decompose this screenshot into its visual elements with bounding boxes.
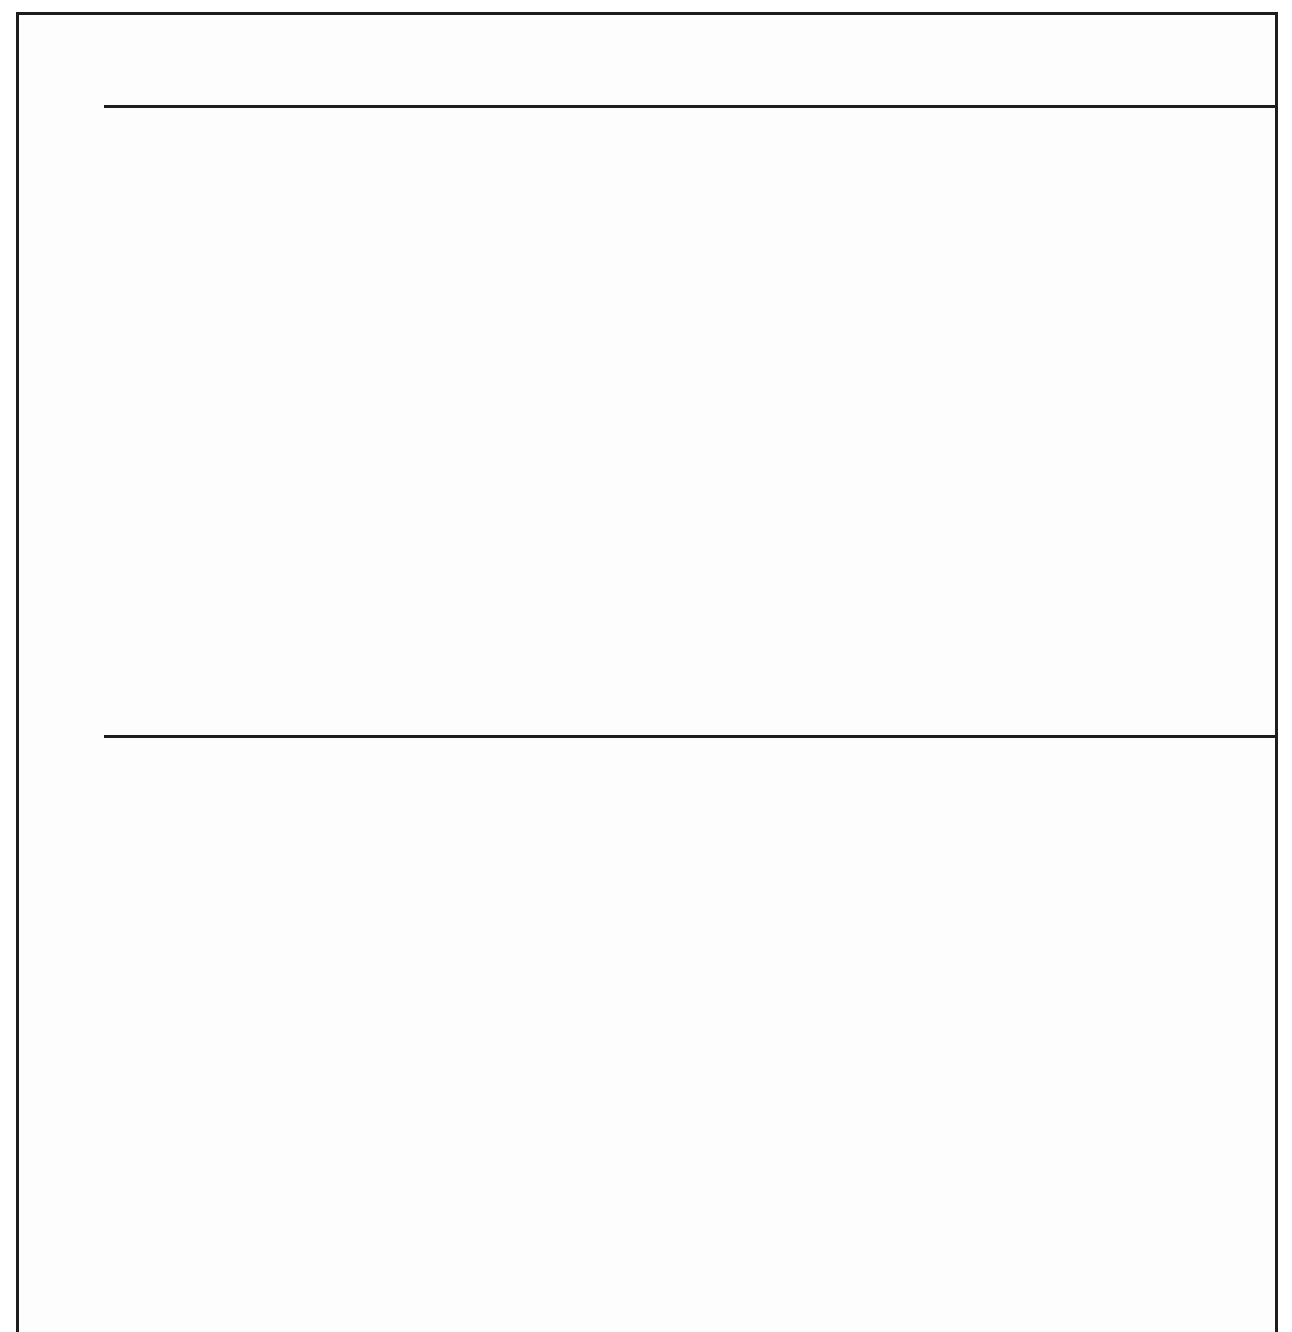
top-chart-panel [0,108,1292,718]
bottom-chart-x-axis [104,735,1276,738]
bottom-chart-panel [0,738,1292,1313]
top-chart-x-axis [104,105,1276,108]
